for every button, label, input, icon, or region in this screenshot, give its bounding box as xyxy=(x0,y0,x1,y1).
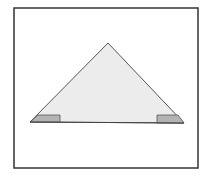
diagram-canvas xyxy=(0,0,208,179)
